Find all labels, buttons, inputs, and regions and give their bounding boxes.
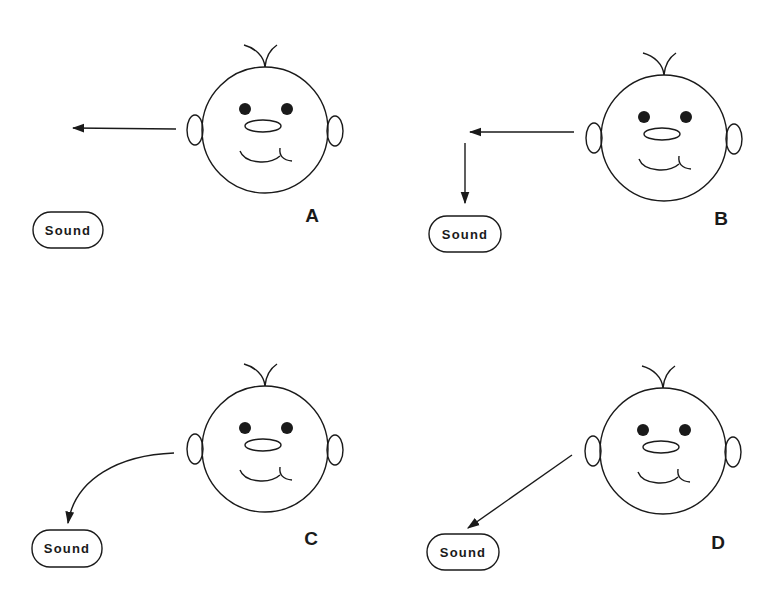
panel-d: Sound D [427, 366, 741, 570]
sound-localization-figure: Sound A Sound B Sound C Sound D [0, 0, 781, 596]
panel-label-d: D [711, 532, 725, 553]
sound-label: Sound [440, 545, 486, 560]
sound-label: Sound [45, 223, 91, 238]
baby-face-b [586, 53, 742, 201]
panel-label-a: A [305, 205, 319, 226]
sound-source-b: Sound [429, 216, 501, 252]
sound-label: Sound [44, 541, 90, 556]
baby-face-d [585, 366, 741, 514]
arrow-diagonal-icon [468, 455, 572, 528]
arrow-curved-icon [68, 453, 174, 523]
baby-face-c [187, 364, 343, 512]
arrow-left-icon [73, 128, 176, 129]
panel-c: Sound C [32, 364, 343, 567]
sound-source-c: Sound [32, 530, 102, 567]
sound-source-a: Sound [33, 212, 103, 248]
panel-label-b: B [714, 208, 728, 229]
sound-source-d: Sound [427, 534, 499, 570]
panel-a: Sound A [33, 45, 343, 248]
panel-b: Sound B [429, 53, 742, 252]
baby-face-a [187, 45, 343, 193]
panel-label-c: C [304, 528, 318, 549]
sound-label: Sound [442, 227, 488, 242]
